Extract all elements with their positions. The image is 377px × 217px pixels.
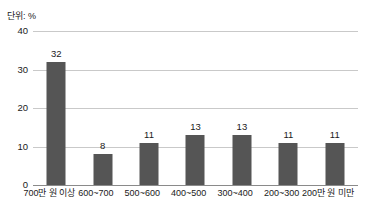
unit-label: 단위: %: [7, 11, 36, 22]
bar[interactable]: [93, 154, 112, 185]
bar-slot: 11: [265, 31, 311, 185]
bar-slot: 32: [33, 31, 79, 185]
x-axis-category-label: 200만 원 미만: [298, 187, 358, 199]
y-axis-tick-label: 20: [17, 103, 28, 113]
axis-baseline: [33, 185, 358, 186]
bar[interactable]: [186, 135, 205, 185]
bars-layer: 3281113131111: [33, 31, 358, 185]
bar-value-label: 11: [330, 130, 340, 140]
bar-value-label: 13: [237, 122, 248, 132]
bar-value-label: 32: [51, 49, 62, 59]
bar[interactable]: [325, 143, 344, 185]
bar-slot: 11: [312, 31, 358, 185]
bar-value-label: 13: [190, 122, 201, 132]
bar-value-label: 11: [283, 130, 293, 140]
bar-slot: 13: [219, 31, 265, 185]
x-axis-labels: 700만 원 이상600~700500~600400~500300~400200…: [33, 187, 358, 209]
y-axis-tick-label: 30: [17, 65, 28, 75]
y-axis-tick-label: 10: [17, 142, 28, 152]
y-axis-tick-label: 40: [17, 26, 28, 36]
bar[interactable]: [279, 143, 298, 185]
bar[interactable]: [47, 62, 66, 185]
bar[interactable]: [140, 143, 159, 185]
bar-chart: 단위: % 010203040 3281113131111 700만 원 이상6…: [0, 0, 377, 217]
bar-value-label: 11: [144, 130, 154, 140]
bar-slot: 13: [172, 31, 218, 185]
bar-slot: 11: [126, 31, 172, 185]
bar[interactable]: [232, 135, 251, 185]
bar-value-label: 8: [100, 141, 105, 151]
bar-slot: 8: [79, 31, 125, 185]
